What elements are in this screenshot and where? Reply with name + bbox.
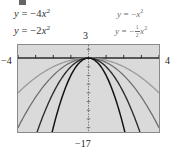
equation-label-neghalfx2: y = −12x2 — [115, 25, 147, 38]
parabola-family-figure: y = −4x2 y = −2x2 y = −x2 y = −12x2 −4 4… — [0, 0, 176, 157]
fraction-denominator: 2 — [135, 33, 140, 39]
axis-label-y-max: 3 — [83, 31, 88, 41]
equation-exponent: 2 — [140, 8, 143, 14]
axis-label-x-max: 4 — [165, 56, 170, 66]
axis-label-y-min: −17 — [75, 139, 91, 149]
equation-minus-sign: − — [129, 26, 134, 36]
equation-fraction-one-half: 12 — [135, 25, 140, 38]
equation-label-neg4x2: y = −4x2 — [14, 9, 50, 20]
equation-exponent: 2 — [46, 24, 50, 32]
equation-exponent: 2 — [46, 7, 50, 15]
equation-label-negx2: y = −x2 — [117, 10, 143, 19]
fraction-numerator: 1 — [135, 25, 140, 31]
cropped-figure-label-artifact — [19, 0, 26, 5]
axis-label-x-min: −4 — [1, 56, 12, 66]
graph-plot-area — [17, 44, 160, 133]
parabola-curves-svg — [18, 45, 159, 132]
equation-label-neg2x2: y = −2x2 — [14, 26, 50, 37]
equation-exponent: 2 — [144, 25, 147, 31]
